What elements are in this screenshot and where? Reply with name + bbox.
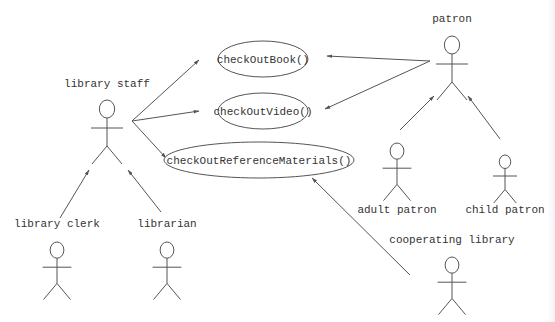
association-patron-to-checkOutVideo — [325, 61, 430, 109]
actor-label: adult patron — [357, 204, 436, 216]
stick-figure-icon — [91, 100, 123, 164]
scan-edge-shadow — [547, 0, 555, 322]
actor-label: child patron — [465, 204, 544, 216]
association-cooperating-library-to-checkOutReferenceMaterials — [312, 178, 410, 275]
actor-adult-patron: adult patron — [357, 143, 436, 216]
actor-label: library clerk — [14, 218, 100, 230]
generalization-librarian-to-library-staff — [128, 170, 161, 212]
actor-library-staff: library staff — [64, 78, 150, 164]
generalization-adult-patron-to-patron — [400, 96, 434, 130]
actor-label: cooperating library — [389, 234, 515, 246]
stick-figure-icon — [43, 242, 72, 300]
actor-child-patron: child patron — [465, 155, 544, 216]
actor-label: library staff — [64, 78, 150, 90]
stick-figure-icon — [493, 155, 517, 203]
association-patron-to-checkOutBook — [327, 56, 430, 61]
use-case-checkOutVideo: checkOutVideo() — [213, 93, 312, 129]
use-case-checkOutBook: checkOutBook() — [217, 41, 309, 77]
use-cases: checkOutBook()checkOutVideo()checkOutRef… — [164, 41, 354, 178]
actor-patron: patron — [432, 13, 472, 100]
actor-cooperating-library: cooperating library — [389, 234, 515, 315]
use-case-label: checkOutReferenceMaterials() — [167, 155, 352, 167]
stick-figure-icon — [438, 257, 467, 315]
use-case-diagram: checkOutBook()checkOutVideo()checkOutRef… — [0, 0, 555, 322]
actor-label: patron — [432, 13, 472, 25]
use-case-checkOutReferenceMaterials: checkOutReferenceMaterials() — [164, 142, 354, 178]
actor-library-clerk: library clerk — [14, 218, 100, 300]
use-case-label: checkOutBook() — [217, 54, 309, 66]
generalization-library-clerk-to-library-staff — [60, 170, 89, 218]
actor-librarian: librarian — [137, 218, 196, 300]
generalization-child-patron-to-patron — [468, 96, 500, 139]
stick-figure-icon — [153, 242, 182, 300]
stick-figure-icon — [436, 36, 468, 100]
association-library-staff-to-checkOutBook — [132, 60, 199, 121]
use-case-label: checkOutVideo() — [213, 106, 312, 118]
actor-label: librarian — [137, 218, 196, 230]
stick-figure-icon — [383, 143, 412, 201]
association-library-staff-to-checkOutReferenceMaterials — [132, 121, 166, 158]
